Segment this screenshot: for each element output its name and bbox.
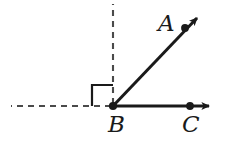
point-label-a: A: [158, 12, 175, 35]
angle-diagram: A B C: [0, 0, 228, 144]
vertex-point-b: [109, 102, 117, 110]
point-c-dot: [186, 102, 194, 110]
right-angle-square: [92, 85, 113, 106]
point-label-b: B: [108, 113, 125, 136]
point-label-c: C: [182, 113, 200, 136]
point-a-dot: [181, 24, 189, 32]
